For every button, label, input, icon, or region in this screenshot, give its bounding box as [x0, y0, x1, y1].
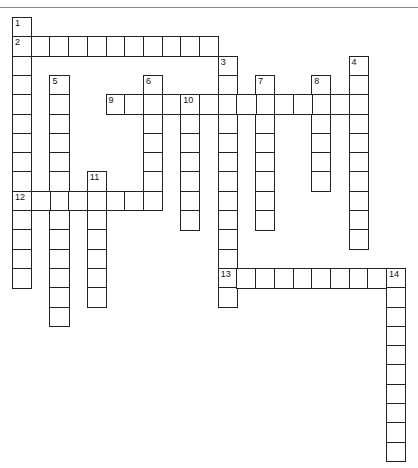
grid-cell[interactable] [49, 152, 69, 173]
grid-cell[interactable] [274, 268, 294, 289]
grid-cell[interactable] [49, 287, 69, 308]
grid-cell[interactable] [180, 36, 200, 57]
grid-cell[interactable] [386, 422, 406, 443]
grid-cell[interactable] [311, 133, 331, 154]
grid-cell[interactable] [218, 171, 238, 192]
grid-cell[interactable] [49, 94, 69, 115]
grid-cell[interactable] [293, 94, 313, 115]
grid-cell[interactable] [218, 229, 238, 250]
grid-cell[interactable] [106, 36, 126, 57]
grid-cell[interactable] [68, 36, 88, 57]
grid-cell[interactable] [180, 133, 200, 154]
grid-cell[interactable] [255, 152, 275, 173]
grid-cell[interactable] [12, 114, 32, 135]
grid-cell[interactable]: 13 [218, 268, 238, 289]
grid-cell[interactable] [124, 94, 144, 115]
grid-cell[interactable] [218, 191, 238, 212]
grid-cell[interactable] [87, 287, 107, 308]
grid-cell[interactable] [349, 229, 369, 250]
grid-cell[interactable] [330, 94, 350, 115]
grid-cell[interactable]: 2 [12, 36, 32, 57]
grid-cell[interactable] [386, 384, 406, 405]
grid-cell[interactable] [255, 268, 275, 289]
grid-cell[interactable]: 1 [12, 17, 32, 38]
grid-cell[interactable] [87, 210, 107, 231]
grid-cell[interactable] [386, 326, 406, 347]
grid-cell[interactable]: 12 [12, 191, 32, 212]
grid-cell[interactable]: 14 [386, 268, 406, 289]
grid-cell[interactable] [87, 191, 107, 212]
grid-cell[interactable] [180, 114, 200, 135]
grid-cell[interactable] [143, 36, 163, 57]
grid-cell[interactable] [255, 191, 275, 212]
grid-cell[interactable]: 5 [49, 75, 69, 96]
grid-cell[interactable] [349, 268, 369, 289]
grid-cell[interactable]: 4 [349, 56, 369, 77]
grid-cell[interactable] [162, 36, 182, 57]
grid-cell[interactable] [180, 171, 200, 192]
grid-cell[interactable] [218, 133, 238, 154]
grid-cell[interactable] [143, 133, 163, 154]
grid-cell[interactable] [199, 36, 219, 57]
grid-cell[interactable] [311, 268, 331, 289]
grid-cell[interactable] [124, 191, 144, 212]
grid-cell[interactable]: 8 [311, 75, 331, 96]
grid-cell[interactable] [68, 191, 88, 212]
grid-cell[interactable] [12, 75, 32, 96]
grid-cell[interactable] [218, 152, 238, 173]
grid-cell[interactable] [49, 133, 69, 154]
grid-cell[interactable] [199, 94, 219, 115]
grid-cell[interactable] [87, 249, 107, 270]
grid-cell[interactable] [49, 268, 69, 289]
grid-cell[interactable] [218, 75, 238, 96]
grid-cell[interactable] [386, 307, 406, 328]
grid-cell[interactable] [255, 94, 275, 115]
grid-cell[interactable] [293, 268, 313, 289]
grid-cell[interactable] [218, 210, 238, 231]
grid-cell[interactable] [12, 94, 32, 115]
grid-cell[interactable] [143, 94, 163, 115]
grid-cell[interactable] [49, 210, 69, 231]
grid-cell[interactable] [274, 94, 294, 115]
grid-cell[interactable] [349, 210, 369, 231]
grid-cell[interactable] [87, 268, 107, 289]
grid-cell[interactable] [124, 36, 144, 57]
grid-cell[interactable] [349, 152, 369, 173]
grid-cell[interactable] [386, 345, 406, 366]
grid-cell[interactable] [218, 114, 238, 135]
grid-cell[interactable] [49, 229, 69, 250]
grid-cell[interactable] [31, 36, 51, 57]
grid-cell[interactable] [12, 229, 32, 250]
grid-cell[interactable] [330, 268, 350, 289]
grid-cell[interactable] [311, 114, 331, 135]
grid-cell[interactable] [12, 268, 32, 289]
grid-cell[interactable] [255, 171, 275, 192]
grid-cell[interactable] [386, 364, 406, 385]
grid-cell[interactable] [87, 36, 107, 57]
grid-cell[interactable] [143, 114, 163, 135]
grid-cell[interactable] [12, 152, 32, 173]
grid-cell[interactable] [180, 152, 200, 173]
grid-cell[interactable]: 11 [87, 171, 107, 192]
grid-cell[interactable] [106, 191, 126, 212]
grid-cell[interactable] [386, 442, 406, 463]
grid-cell[interactable] [236, 268, 256, 289]
grid-cell[interactable] [31, 191, 51, 212]
grid-cell[interactable] [349, 191, 369, 212]
grid-cell[interactable] [49, 307, 69, 328]
grid-cell[interactable]: 9 [106, 94, 126, 115]
grid-cell[interactable] [12, 210, 32, 231]
grid-cell[interactable] [255, 210, 275, 231]
grid-cell[interactable] [349, 75, 369, 96]
grid-cell[interactable] [12, 249, 32, 270]
grid-cell[interactable] [143, 152, 163, 173]
grid-cell[interactable]: 10 [180, 94, 200, 115]
grid-cell[interactable] [255, 114, 275, 135]
grid-cell[interactable]: 6 [143, 75, 163, 96]
grid-cell[interactable] [143, 171, 163, 192]
grid-cell[interactable] [49, 36, 69, 57]
grid-cell[interactable] [349, 133, 369, 154]
grid-cell[interactable] [49, 114, 69, 135]
grid-cell[interactable] [349, 94, 369, 115]
grid-cell[interactable] [349, 171, 369, 192]
